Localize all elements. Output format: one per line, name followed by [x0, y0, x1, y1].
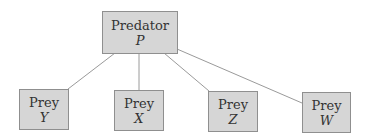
node-prey-y: Prey Y	[19, 89, 69, 130]
node-label: Prey	[29, 95, 59, 110]
node-variable: P	[136, 33, 145, 48]
node-variable: Y	[40, 110, 49, 125]
edge-p-z	[164, 53, 209, 91]
node-predator-p: Predator P	[102, 11, 178, 54]
node-label: Prey	[124, 96, 154, 111]
edge-p-y	[68, 53, 115, 89]
node-label: Prey	[218, 97, 248, 112]
node-prey-z: Prey Z	[208, 91, 258, 132]
node-prey-x: Prey X	[114, 90, 164, 131]
node-label: Predator	[111, 18, 169, 33]
node-variable: Z	[228, 112, 237, 127]
node-prey-w: Prey W	[302, 92, 351, 133]
node-label: Prey	[312, 98, 342, 113]
node-variable: X	[134, 111, 143, 126]
node-variable: W	[320, 113, 333, 128]
